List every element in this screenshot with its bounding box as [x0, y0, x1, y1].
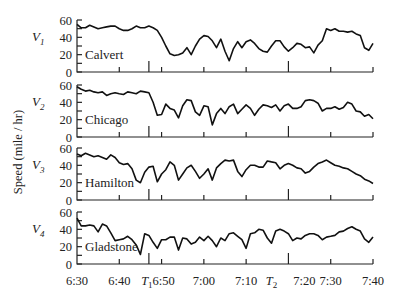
marker-label-t2: T2 [266, 274, 277, 290]
y-tick-label: 40 [60, 159, 73, 173]
y-tick-label: 40 [60, 223, 73, 237]
x-tick-label: 7:30 [320, 274, 342, 288]
station-label: Chicago [85, 112, 128, 127]
x-tick-label: 6:30 [66, 274, 88, 288]
y-tick-label: 20 [60, 176, 73, 190]
x-tick-label: 7:00 [193, 274, 215, 288]
marker-label-t1: T1 [141, 274, 152, 290]
x-tick-label: 6:50 [152, 274, 174, 288]
y-tick-label: 40 [60, 96, 73, 110]
speed-time-chart: Speed (mile / hr) 0204060CalvertV1020406… [0, 0, 401, 300]
y-axis-title: Speed (mile / hr) [11, 110, 25, 194]
y-tick-label: 20 [60, 48, 73, 62]
station-label: Hamilton [85, 175, 135, 190]
x-tick-label: 6:40 [108, 274, 130, 288]
station-label: Gladstone [85, 239, 138, 254]
y-tick-label: 60 [60, 14, 73, 28]
panel-gladstone: 0204060GladstoneV4 [32, 206, 373, 272]
y-tick-label: 40 [60, 31, 73, 45]
y-tick-label: 0 [66, 66, 72, 80]
x-tick-label: 7:10 [235, 274, 257, 288]
y-axis-label: Speed (mile / hr) [11, 110, 25, 194]
axis-lines [77, 85, 373, 137]
panel-calvert: 0204060CalvertV1 [32, 14, 373, 80]
variable-label: V2 [32, 94, 45, 112]
y-tick-label: 60 [60, 142, 73, 156]
station-label: Calvert [85, 47, 124, 62]
variable-label: V3 [32, 157, 45, 175]
panel-chicago: 0204060ChicagoV2 [32, 79, 373, 145]
x-tick-label: 7:20 [293, 274, 315, 288]
variable-label: V1 [32, 29, 44, 47]
panel-hamilton: 0204060HamiltonV3 [32, 142, 373, 208]
axis-lines [77, 148, 373, 200]
y-tick-label: 60 [60, 79, 73, 93]
y-tick-label: 20 [60, 113, 73, 127]
y-tick-label: 0 [66, 258, 72, 272]
axis-lines [77, 212, 373, 264]
y-tick-label: 20 [60, 240, 73, 254]
x-tick-label: 7:40 [362, 274, 384, 288]
x-axis-tick-labels: 6:306:406:507:007:107:207:307:40T1T2 [66, 274, 384, 290]
y-tick-label: 60 [60, 206, 73, 220]
axis-lines [77, 20, 373, 72]
variable-label: V4 [32, 221, 45, 239]
chart-panels: 0204060CalvertV10204060ChicagoV20204060H… [32, 14, 373, 272]
